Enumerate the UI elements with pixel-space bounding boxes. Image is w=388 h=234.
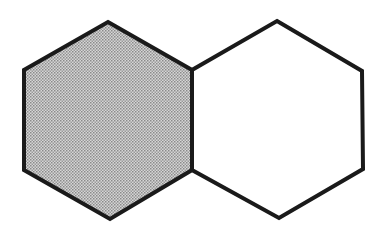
right-hexagon-unshaded <box>192 21 363 218</box>
diagram-canvas <box>0 0 388 234</box>
fused-hexagons-diagram <box>0 0 388 234</box>
left-hexagon-shaded <box>24 22 192 219</box>
